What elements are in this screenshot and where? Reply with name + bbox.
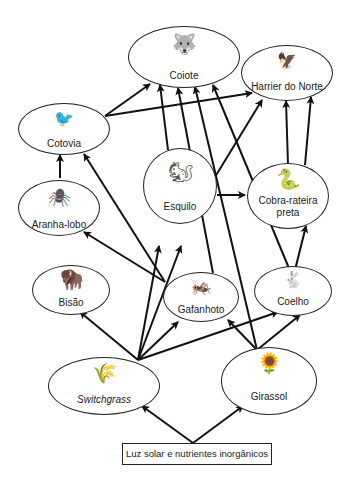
hawk-icon: 🦅 [277,50,297,72]
node-label: Coiote [129,70,239,82]
node-cotovia: 🐦 Cotovia [18,103,110,155]
node-esquilo: 🐿 Esquilo [143,148,217,224]
sunflower-icon: 🌻 [257,352,282,374]
rabbit-icon: 🐇 [283,269,303,291]
node-label: Harrier do Norte [242,81,332,93]
node-label: Gafanhoto [164,304,238,316]
node-switchgrass: 🌾 Switchgrass [48,357,160,415]
node-bisao: 🦬 Bisão [32,265,110,315]
lark-icon: 🐦 [54,108,74,130]
squirrel-icon: 🐿 [168,161,193,183]
node-coiote: 🐺 Coiote [128,26,240,88]
grasshopper-icon: 🦗 [190,275,212,297]
node-gafanhoto: 🦗 Gafanhoto [163,272,239,322]
node-label: Bisão [33,297,109,309]
source-box: Luz solar e nutrientes inorgânicos [122,443,272,465]
node-coelho: 🐇 Coelho [254,266,332,316]
spider-icon: 🕷 [48,187,71,209]
node-label: Switchgrass [49,394,159,406]
node-label: Esquilo [144,201,216,213]
grass-icon: 🌾 [92,362,117,384]
coyote-icon: 🐺 [172,33,197,55]
node-label: Cobra-rateira [248,195,328,207]
node-label: Coelho [255,296,331,308]
node-aranha: 🕷 Aranha-lobo [18,180,100,236]
node-label: Aranha-lobo [19,219,99,231]
node-label: Girassol [222,391,316,403]
node-harrier: 🦅 Harrier do Norte [241,45,333,101]
bison-icon: 🦬 [59,268,84,290]
node-girassol: 🌻 Girassol [221,347,317,415]
node-label: Cotovia [19,138,109,150]
node-cobra: 🐍 Cobra-rateira preta [247,163,329,229]
node-label-line2: preta [248,207,328,219]
snake-icon: 🐍 [276,168,301,190]
